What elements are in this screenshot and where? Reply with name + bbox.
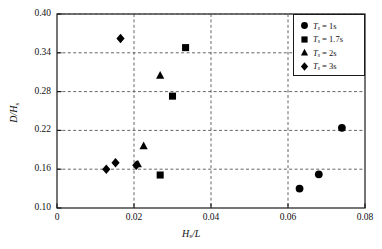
x-tick-label: 0.06 xyxy=(273,213,303,223)
x-axis-label-rest: /L xyxy=(192,228,200,239)
data-point-diamond xyxy=(102,164,110,173)
legend-item: Ts = 2s xyxy=(299,46,359,60)
y-tick-label: 0.10 xyxy=(17,203,51,213)
y-axis-label: D/Hs xyxy=(12,95,52,135)
data-point-square xyxy=(169,93,176,100)
data-point-diamond xyxy=(111,158,119,167)
x-tick-label: 0.08 xyxy=(350,213,380,223)
legend-marker-diamond xyxy=(299,61,310,72)
y-tick-label: 0.34 xyxy=(17,48,51,58)
y-axis-label-subscript: s xyxy=(13,103,20,106)
legend: Ts = 1sTs = 1.7sTs = 2sTs = 3s xyxy=(293,14,365,76)
y-axis-label-symbol: D/H xyxy=(8,105,19,122)
legend-label: Ts = 1.7s xyxy=(313,34,343,44)
data-point-square xyxy=(182,44,189,51)
legend-marker-triangle xyxy=(299,47,310,58)
data-point-circle xyxy=(315,170,323,178)
legend-label: Ts = 3s xyxy=(313,61,337,71)
data-point-circle xyxy=(338,124,346,132)
scatter-chart-figure: 0.100.160.220.280.340.40 00.020.040.060.… xyxy=(0,0,382,249)
y-tick-label: 0.40 xyxy=(17,9,51,19)
legend-label: Ts = 1s xyxy=(313,21,337,31)
data-point-circle xyxy=(296,185,304,193)
x-tick-label: 0.04 xyxy=(196,213,226,223)
legend-item: Ts = 1.7s xyxy=(299,33,359,47)
x-tick-label: 0.02 xyxy=(119,213,149,223)
data-point-triangle xyxy=(140,142,148,150)
data-point-square xyxy=(157,171,164,178)
data-point-triangle xyxy=(156,71,164,79)
legend-marker-circle xyxy=(299,20,310,31)
legend-item: Ts = 3s xyxy=(299,60,359,74)
y-tick-label: 0.16 xyxy=(17,164,51,174)
x-tick-label: 0 xyxy=(42,213,72,223)
data-point-diamond xyxy=(132,161,140,170)
legend-item: Ts = 1s xyxy=(299,19,359,33)
x-axis-label: Hs/L xyxy=(182,228,200,239)
legend-marker-square xyxy=(299,34,310,45)
data-point-diamond xyxy=(116,34,124,43)
legend-label: Ts = 2s xyxy=(313,48,337,58)
